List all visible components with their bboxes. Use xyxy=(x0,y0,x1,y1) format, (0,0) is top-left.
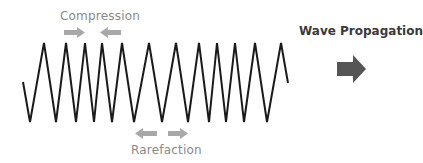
rarefaction-arrow-right-icon xyxy=(168,128,188,139)
rarefaction-arrow-left-icon xyxy=(135,128,157,139)
wave-propagation-label: Wave Propagation xyxy=(299,24,423,38)
propagation-arrow-icon xyxy=(337,55,366,83)
longitudinal-wave-zigzag xyxy=(23,43,288,122)
compression-label: Compression xyxy=(60,9,140,23)
compression-arrow-left-icon xyxy=(100,27,121,38)
compression-arrow-right-icon xyxy=(64,27,85,38)
rarefaction-label: Rarefaction xyxy=(131,143,202,157)
